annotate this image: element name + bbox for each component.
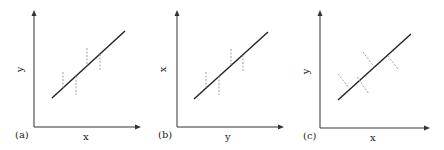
x-axis-label: x [83,131,89,142]
y-axis-label: x [157,67,168,73]
y-axis-label: y [14,67,25,73]
panel-b-plot [145,0,293,150]
y-axis-label: y [300,69,311,75]
panel-c: (c) x y [294,0,442,150]
panel-label: (c) [303,130,316,141]
panel-label: (b) [158,129,172,140]
panel-a-plot [0,0,148,150]
panel-label: (a) [15,129,29,140]
panel-a: (a) x y [0,0,148,150]
panel-b: (b) y x [145,0,293,150]
x-axis-label: x [370,132,376,143]
panel-c-plot [294,0,444,150]
x-axis-label: y [225,131,231,142]
